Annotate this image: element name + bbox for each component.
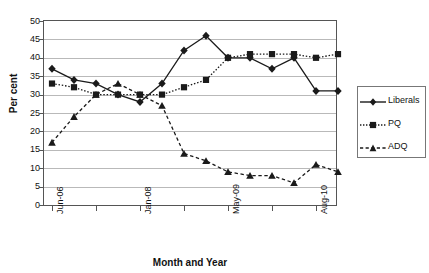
legend-label-pq: PQ <box>388 119 401 128</box>
gridline <box>44 168 336 169</box>
legend-swatch-liberals <box>358 94 388 106</box>
x-axis-title: Month and Year <box>43 257 337 268</box>
x-tick-mark <box>316 206 317 211</box>
legend-label-adq: ADQ <box>388 142 408 151</box>
chart-container: Per cent 05101520253035404550 Jun-06Jan-… <box>0 0 429 273</box>
legend-item-liberals[interactable]: Liberals <box>358 89 425 111</box>
x-tick-mark <box>140 206 141 211</box>
legend-swatch-pq <box>358 117 388 129</box>
gridline <box>44 95 336 96</box>
x-tick-label: May-09 <box>232 184 241 214</box>
gridline <box>44 58 336 59</box>
gridline <box>44 39 336 40</box>
x-tick-mark <box>228 206 229 211</box>
x-tick-mark <box>184 206 185 211</box>
plot-area <box>43 20 337 206</box>
y-axis-tick-labels: 05101520253035404550 <box>12 0 40 273</box>
legend-item-adq[interactable]: ADQ <box>358 135 425 157</box>
gridline <box>44 131 336 132</box>
x-tick-mark <box>272 206 273 211</box>
x-tick-label: Aug-10 <box>320 185 329 214</box>
gridline <box>44 76 336 77</box>
gridline <box>44 150 336 151</box>
legend-label-liberals: Liberals <box>388 96 420 105</box>
x-tick-mark <box>96 206 97 211</box>
gridline <box>44 187 336 188</box>
gridline <box>44 21 336 22</box>
x-tick-label: Jun-06 <box>56 186 65 214</box>
legend: Liberals PQ ADQ <box>357 86 426 158</box>
gridline <box>44 113 336 114</box>
x-tick-mark <box>52 206 53 211</box>
x-tick-label: Jan-08 <box>144 186 153 214</box>
legend-item-pq[interactable]: PQ <box>358 112 425 134</box>
legend-swatch-adq <box>358 140 388 152</box>
